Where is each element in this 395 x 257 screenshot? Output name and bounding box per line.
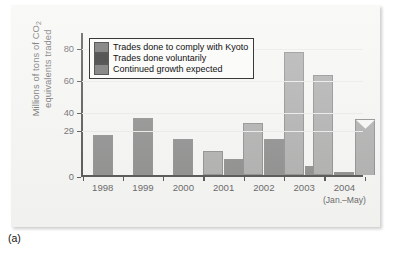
y-tick-label: 29 [64, 126, 74, 136]
x-tick-mark [163, 177, 164, 181]
x-tick-label: 2000 [173, 182, 194, 193]
bar [93, 135, 113, 175]
x-tick-mark [284, 177, 285, 181]
chart-legend: Trades done to comply with KyotoTrades d… [89, 38, 254, 79]
y-tick-label: 40 [64, 108, 74, 118]
figure-caption: (a) [8, 232, 21, 244]
x-tick-label: 1999 [132, 182, 153, 193]
legend-swatch [94, 53, 109, 64]
x-tick-label: 2003 [293, 182, 314, 193]
y-axis-title: Millions of tons of CO2 equivalents trad… [30, 0, 53, 144]
x-axis-labels: 1998199920002001200220032004(Jan.–May) [83, 179, 363, 213]
y-tick-label: 80 [64, 44, 74, 54]
bar [224, 159, 244, 175]
gridline [82, 81, 363, 82]
legend-item: Trades done voluntarily [94, 53, 248, 64]
x-tick-mark [324, 177, 325, 181]
legend-swatch [94, 64, 109, 75]
y-tick-mark [77, 113, 81, 114]
gridline [82, 131, 363, 132]
bar [264, 139, 284, 176]
y-axis-title-line2: equivalents traded [43, 30, 54, 108]
figure-panel: Millions of tons of CO2 equivalents trad… [11, 5, 380, 227]
bar [173, 139, 193, 176]
legend-swatch [94, 42, 109, 53]
y-tick-mark [77, 81, 81, 82]
x-tick-mark [83, 177, 84, 181]
gridline [82, 113, 363, 114]
y-tick-mark [77, 49, 81, 50]
bar [355, 119, 375, 175]
x-tick-label: 2004 [334, 182, 355, 193]
y-axis-title-line1: Millions of tons of CO [30, 25, 41, 116]
x-tick-sublabel: (Jan.–May) [323, 195, 366, 205]
x-tick-label: 2002 [253, 182, 274, 193]
legend-item: Continued growth expected [94, 64, 248, 75]
bar [313, 75, 333, 176]
bar-group [324, 33, 364, 175]
y-tick-mark [77, 177, 81, 178]
x-tick-mark [365, 177, 366, 181]
y-tick-label: 60 [64, 76, 74, 86]
x-tick-mark [203, 177, 204, 181]
bar [203, 151, 223, 175]
legend-label: Trades done voluntarily [113, 54, 206, 63]
y-tick-label: 0 [69, 172, 74, 182]
y-axis-title-subscript: 2 [35, 21, 42, 25]
x-tick-mark [244, 177, 245, 181]
legend-label: Trades done to comply with Kyoto [113, 43, 248, 52]
legend-label: Continued growth expected [113, 65, 223, 74]
x-tick-mark [123, 177, 124, 181]
y-tick-mark [77, 131, 81, 132]
projection-notch [356, 120, 375, 129]
x-tick-label: 2001 [213, 182, 234, 193]
bar [334, 172, 354, 175]
x-tick-label: 1998 [92, 182, 113, 193]
legend-item: Trades done to comply with Kyoto [94, 42, 248, 53]
bar [133, 118, 153, 176]
